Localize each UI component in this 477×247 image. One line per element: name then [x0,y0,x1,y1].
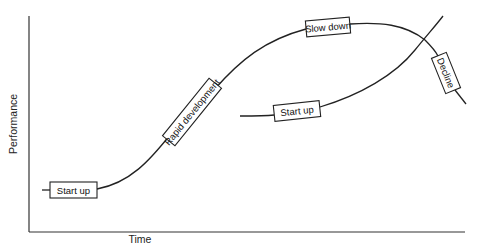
svg-text:Rapid development: Rapid development [162,76,222,147]
stage-decline: Decline [431,52,460,93]
stage-start-up-1: Start up [50,182,97,198]
svg-text:Start up: Start up [57,185,90,196]
stage-start-up-2: Start up [273,101,320,122]
s-curve-diagram: Performance Time Start up Rapid developm… [0,0,477,247]
stage-rapid-development: Rapid development [160,75,224,149]
y-axis-label: Performance [7,94,19,154]
stage-slow-down: Slow down [304,17,351,37]
first-s-curve: Start up Rapid development Slow down Dec… [42,17,466,198]
x-axis-label: Time [129,233,152,245]
